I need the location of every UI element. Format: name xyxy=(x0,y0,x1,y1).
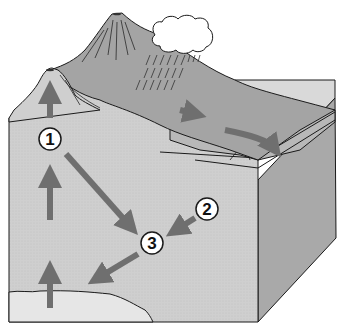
label-3-text: 3 xyxy=(147,234,156,253)
rock-cycle-diagram: 1 2 3 xyxy=(0,0,341,328)
arrow-erosion-slope xyxy=(180,110,195,114)
diagram-canvas: 1 2 3 xyxy=(0,0,341,328)
volcano-crater-main xyxy=(113,13,121,16)
label-1-text: 1 xyxy=(45,130,54,149)
label-1: 1 xyxy=(39,128,61,150)
volcano-crater-small xyxy=(46,69,54,71)
label-2-text: 2 xyxy=(202,200,211,219)
label-2: 2 xyxy=(196,198,218,220)
cloud xyxy=(152,15,212,53)
label-3: 3 xyxy=(141,232,163,254)
